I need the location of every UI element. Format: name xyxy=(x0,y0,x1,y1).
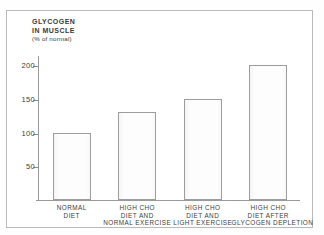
category-label-line: HIGH CHO xyxy=(232,204,306,212)
category-label-line: DIET xyxy=(35,212,109,220)
y-tick-label: 50 xyxy=(26,162,35,171)
y-axis-title-line-b: IN MUSCLE xyxy=(32,27,75,36)
y-axis-title-line-a: GLYCOGEN xyxy=(32,18,75,27)
y-axis-title: GLYCOGEN IN MUSCLE (% of normal) GLYCOGE… xyxy=(32,18,75,44)
category-label-4: HIGH CHODIET AFTERGLYCOGEN DEPLETION xyxy=(232,204,306,227)
category-label-line: DIET AFTER xyxy=(232,212,306,220)
y-axis-line xyxy=(38,56,39,201)
category-label-line: NORMAL EXERCISE xyxy=(101,219,175,227)
bar-2 xyxy=(118,112,156,200)
category-label-line: HIGH CHO xyxy=(166,204,240,212)
bar-1 xyxy=(53,133,91,200)
chart-screenshot: GLYCOGEN IN MUSCLE (% of normal) GLYCOGE… xyxy=(0,0,324,235)
y-tick-label: 100 xyxy=(21,129,35,138)
plot-area: 50100150200 xyxy=(38,56,300,201)
category-label-line: NORMAL xyxy=(35,204,109,212)
x-axis-line xyxy=(36,200,300,201)
category-label-1: NORMALDIET xyxy=(35,204,109,219)
category-label-line: GLYCOGEN DEPLETION xyxy=(232,219,306,227)
category-label-line: DIET AND xyxy=(166,212,240,220)
bar-4 xyxy=(249,65,287,200)
category-label-line: DIET AND xyxy=(101,212,175,220)
category-label-line: HIGH CHO xyxy=(101,204,175,212)
bar-3 xyxy=(184,99,222,200)
category-label-2: HIGH CHODIET ANDNORMAL EXERCISE xyxy=(101,204,175,227)
y-tick-label: 200 xyxy=(21,61,35,70)
y-axis-units-label: (% of normal) xyxy=(32,35,75,44)
y-tick-label: 150 xyxy=(21,95,35,104)
category-label-3: HIGH CHODIET ANDLIGHT EXERCISE xyxy=(166,204,240,227)
category-label-line: LIGHT EXERCISE xyxy=(166,219,240,227)
